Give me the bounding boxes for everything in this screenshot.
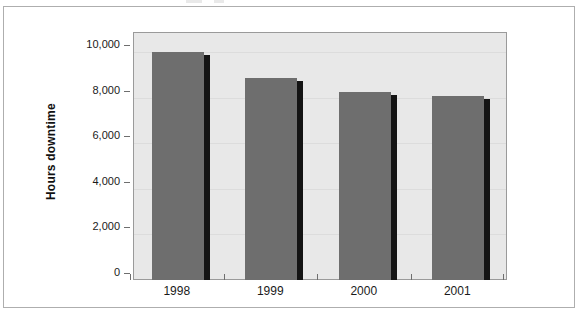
y-axis-tick-mark [124, 227, 130, 228]
bar-2001[interactable] [432, 96, 484, 280]
y-axis-tick-label: 8,000 [58, 85, 120, 96]
y-axis-tick-label: 2,000 [58, 221, 120, 232]
x-axis-tick-label: 1999 [230, 285, 310, 298]
x-axis-tick-mark [411, 274, 412, 280]
y-axis-tick-mark [124, 91, 130, 92]
x-axis-tick-label: 2001 [417, 285, 497, 298]
bar-1999[interactable] [245, 78, 297, 280]
cropped-text-artifact-second [214, 0, 224, 3]
x-axis-tick-mark-end [503, 274, 504, 280]
plot-area [133, 32, 507, 280]
x-axis-tick-mark [317, 274, 318, 280]
y-axis-title: Hours downtime [44, 103, 58, 200]
y-axis-tick-label: 0 [58, 267, 120, 278]
y-axis-tick-label: 10,000 [58, 39, 120, 50]
y-axis-tick-label: 6,000 [58, 130, 120, 141]
x-axis-tick-label: 1998 [137, 285, 217, 298]
y-axis-tick-mark [124, 136, 130, 137]
figure-frame: Hours downtime 02,0004,0006,0008,00010,0… [3, 6, 575, 308]
x-axis-tick-mark [130, 274, 131, 280]
chart-screenshot: Hours downtime 02,0004,0006,0008,00010,0… [0, 0, 581, 314]
x-axis-tick-mark [224, 274, 225, 280]
x-axis-tick-label: 2000 [324, 285, 404, 298]
y-axis-tick-label: 4,000 [58, 176, 120, 187]
bar-2000[interactable] [339, 92, 391, 280]
bar-1998[interactable] [152, 52, 204, 280]
y-axis-tick-mark [124, 182, 130, 183]
cropped-text-artifact [186, 0, 202, 3]
y-axis-tick-mark [124, 45, 130, 46]
